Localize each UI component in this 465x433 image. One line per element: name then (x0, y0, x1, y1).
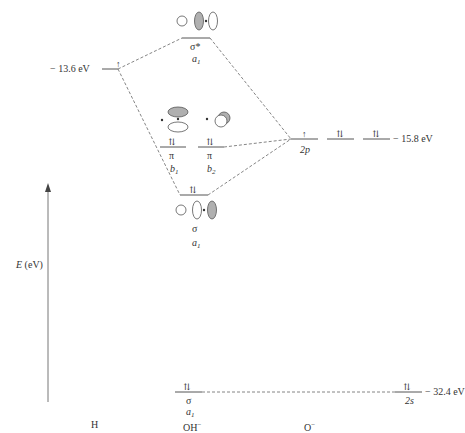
sigma-star-symmetry: a1 (192, 54, 201, 67)
o-2p-energy-label: − 15.8 eV (393, 134, 433, 144)
o-2s-energy-label: − 32.4 eV (425, 387, 465, 397)
pi-b1-orbital-icon (161, 107, 188, 132)
h-energy-label: − 13.6 eV (50, 64, 90, 74)
sigma-star-label: σ* (190, 42, 200, 52)
sigma-low-label: σ (186, 396, 191, 406)
sigma-orbital-icon (176, 201, 217, 219)
pi-b2-symmetry: b2 (207, 164, 216, 177)
energy-axis-label: E (eV) (16, 260, 43, 270)
o-2p-electron-2: ⇅ (336, 130, 342, 139)
column-label-oh: OH− (183, 420, 201, 433)
o-2p-label: 2p (300, 145, 310, 155)
pi-b1-electrons: ⇅ (168, 138, 174, 147)
sigma-symmetry: a1 (192, 238, 201, 251)
sigma-low-symmetry: a1 (186, 407, 195, 420)
sigma-label: σ (192, 224, 197, 234)
h-electron: ↑ (116, 60, 119, 69)
pi-b2-orbital-icon (206, 112, 230, 127)
correlation-lines (118, 38, 395, 392)
column-label-o: O− (304, 420, 315, 433)
pi-b2-label: π (207, 151, 212, 161)
sigma-low-electrons: ⇅ (183, 383, 189, 392)
o-2p-electron-3: ⇅ (372, 130, 378, 139)
axis-arrow-icon (45, 183, 51, 192)
pi-b1-symmetry: b1 (170, 164, 179, 177)
energy-axis (45, 183, 51, 402)
o-2p-electron-1: ↑ (302, 130, 305, 139)
pi-b1-label: π (169, 151, 174, 161)
pi-b2-electrons: ⇅ (206, 138, 212, 147)
sigma-electrons: ⇅ (189, 186, 195, 195)
sigma-star-orbital-icon (177, 12, 218, 30)
column-label-h: H (91, 420, 98, 430)
o-2s-label: 2s (405, 396, 414, 406)
o-2s-electrons: ⇅ (403, 383, 409, 392)
